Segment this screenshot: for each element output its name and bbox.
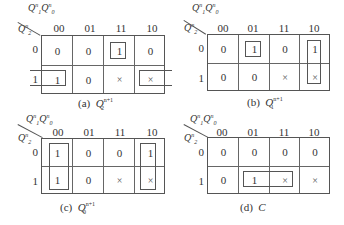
col-header: 00 (208, 22, 238, 34)
column-variable-label: Qn1Qn0 (26, 113, 52, 126)
cell: × (104, 166, 135, 194)
cell: 0 (208, 138, 239, 166)
group-loop (245, 41, 261, 57)
cell: 0 (73, 139, 104, 166)
kmap-c: Qn1Qn0 Qn2 00 01 11 10 0 1 1 0 0 1 1 0 ×… (0, 112, 172, 225)
cell: 0 (239, 138, 270, 166)
group-loop-wrap-right (139, 70, 172, 86)
row-variable-label: Qn2 (18, 132, 31, 145)
row-header: 0 (192, 42, 204, 54)
cell: 0 (73, 65, 104, 94)
caption: (a) Qn+12 (78, 97, 104, 111)
cell: 0 (300, 138, 330, 166)
cell: 0 (135, 36, 166, 65)
col-header: 01 (238, 22, 268, 34)
group-loop (243, 171, 293, 187)
cell: 0 (239, 63, 270, 91)
cell: 0 (104, 139, 135, 166)
col-header: 01 (74, 126, 104, 138)
caption: (d) C (240, 201, 266, 213)
column-variable-label: Qn1Qn0 (190, 113, 216, 126)
col-header: 10 (299, 22, 329, 34)
cell: 0 (208, 35, 239, 63)
col-header: 10 (137, 22, 167, 34)
cell: × (300, 166, 330, 194)
row-variable-label: Qn2 (184, 132, 197, 145)
caption: (b) Qn+11 (247, 96, 274, 110)
col-header: 01 (75, 22, 105, 34)
cell: 0 (270, 138, 300, 166)
cell: 0 (73, 36, 104, 65)
col-header: 00 (43, 126, 73, 138)
cell: × (270, 63, 300, 91)
kmap-b: Qn1Qn0 Qn2 00 01 11 10 0 1 0 1 0 1 0 0 ×… (172, 0, 344, 112)
row-header: 1 (26, 175, 38, 187)
column-variable-label: Qn1Qn0 (28, 2, 54, 15)
column-variable-label: Qn1Qn0 (192, 2, 218, 15)
group-loop-wrap-left (30, 70, 66, 86)
cell: × (104, 65, 135, 94)
group-loop (110, 42, 126, 59)
cell: 0 (270, 35, 300, 63)
col-header: 00 (44, 22, 74, 34)
col-header: 11 (106, 22, 136, 34)
kmap-d: Qn1Qn0 Qn2 00 01 11 10 0 1 0 0 0 0 0 1 ×… (172, 112, 344, 225)
group-loop (140, 143, 156, 190)
row-header: 1 (192, 72, 204, 84)
cell: 0 (208, 166, 239, 194)
group-loop (49, 143, 69, 190)
col-header: 11 (105, 126, 135, 138)
cell: 0 (73, 166, 104, 194)
row-header: 0 (192, 146, 204, 158)
cell: 0 (208, 63, 239, 91)
cell: 0 (42, 36, 73, 65)
kmap-a: Qn1Qn0 Qn2 00 01 11 10 0 1 0 0 1 0 1 0 ×… (0, 0, 172, 112)
caption: (c) Qn+10 (60, 201, 86, 215)
col-header: 11 (269, 22, 299, 34)
row-header: 0 (26, 146, 38, 158)
row-header: 0 (26, 43, 38, 55)
group-loop (307, 40, 321, 84)
row-header: 1 (192, 175, 204, 187)
col-header: 10 (137, 126, 167, 138)
